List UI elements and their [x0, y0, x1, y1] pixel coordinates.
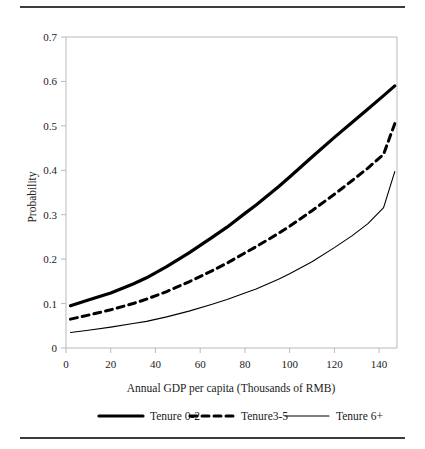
chart-legend: Tenure 0-2Tenure3-5Tenure 6+	[99, 410, 383, 422]
y-tick-label: 0.5	[43, 120, 57, 132]
series-line-0	[70, 86, 394, 306]
y-axis-ticks	[61, 37, 66, 348]
x-tick-label: 80	[239, 358, 251, 370]
x-axis-title: Annual GDP per capita (Thousands of RMB)	[127, 382, 336, 395]
x-tick-label: 120	[326, 358, 343, 370]
y-tick-label: 0.4	[43, 164, 57, 176]
top-horizontal-rule	[20, 6, 405, 8]
legend-label-1: Tenure3-5	[241, 410, 288, 422]
x-tick-label: 140	[371, 358, 388, 370]
y-axis-title: Probability	[26, 171, 39, 222]
y-axis-tick-labels: 00.10.20.30.40.50.60.7	[43, 31, 57, 354]
legend-label-2: Tenure 6+	[336, 410, 383, 422]
plot-frame	[66, 37, 397, 348]
y-tick-label: 0.6	[43, 75, 57, 87]
y-tick-label: 0.1	[43, 298, 57, 310]
y-tick-label: 0.7	[43, 31, 57, 43]
x-tick-label: 20	[105, 358, 117, 370]
y-tick-label: 0.3	[43, 209, 57, 221]
x-tick-label: 100	[281, 358, 298, 370]
x-tick-label: 0	[63, 358, 69, 370]
x-tick-label: 60	[195, 358, 207, 370]
x-axis-tick-labels: 020406080100120140	[63, 358, 388, 370]
chart-canvas: 00.10.20.30.40.50.60.7 02040608010012014…	[0, 12, 425, 432]
y-tick-label: 0	[52, 342, 58, 354]
line-chart-figure: 00.10.20.30.40.50.60.7 02040608010012014…	[0, 12, 425, 432]
x-tick-label: 40	[150, 358, 162, 370]
series-layer	[70, 86, 394, 333]
y-tick-label: 0.2	[43, 253, 57, 265]
x-axis-ticks	[66, 348, 379, 353]
bottom-horizontal-rule	[20, 437, 405, 439]
